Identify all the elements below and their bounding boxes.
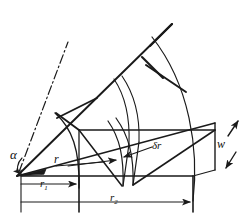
wedge-face-right (133, 130, 215, 185)
sector-diagram: α r r1 r2 δr w (0, 0, 247, 220)
element-side-right (133, 142, 139, 185)
label-r1-subscript: 1 (44, 184, 47, 191)
label-outer-radius-r2: r2 (110, 192, 118, 206)
datum-dash-dot-line (19, 42, 68, 172)
diagram-canvas (0, 0, 247, 220)
inner-arc-r1 (55, 113, 79, 188)
label-inner-radius-r1: r1 (40, 178, 48, 192)
depth-arrow-down (226, 152, 236, 168)
label-radius-r: r (54, 153, 59, 165)
body-bottom-right-edge (193, 170, 215, 176)
radial-edge-upper-stub (150, 24, 172, 46)
element-arc-inner-top (114, 79, 129, 144)
label-r2-subscript: 2 (114, 198, 117, 205)
label-element-delta-r: δr (152, 140, 161, 151)
cross-tick-left (57, 98, 97, 118)
cross-tick-mid (146, 65, 186, 92)
element-side-left (123, 144, 129, 186)
depth-arrow-up (228, 121, 238, 136)
label-alpha: α (10, 148, 17, 161)
label-depth-w: w (217, 138, 225, 150)
